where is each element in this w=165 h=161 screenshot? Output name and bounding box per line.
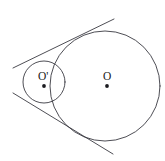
large-circle-center-dot [105,84,109,88]
large-circle-center-label: O [103,70,111,82]
geometry-figure: O O' [0,0,165,161]
small-circle-center-dot [42,84,46,88]
small-circle-O-prime [23,61,65,103]
small-circle-center-label: O' [38,70,48,82]
upper-common-tangent-line [13,19,114,68]
large-circle-O [50,31,160,141]
geometry-canvas: O O' [0,0,165,161]
lower-common-tangent-line [13,93,113,154]
